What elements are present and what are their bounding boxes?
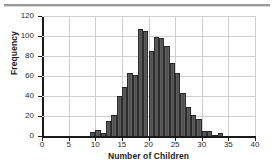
- y-axis-tick-mark: [38, 16, 42, 17]
- x-axis-tick-label: 35: [218, 141, 238, 149]
- gridline-vertical: [202, 16, 203, 136]
- gridline-vertical: [69, 16, 70, 136]
- y-axis-tick-label: 0: [12, 132, 34, 140]
- x-axis-tick-mark: [228, 137, 229, 141]
- y-axis-tick-label: 100: [12, 32, 34, 40]
- x-axis-tick-mark: [175, 137, 176, 141]
- plot-area: [42, 16, 255, 136]
- histogram-bar: [218, 133, 223, 136]
- x-axis-tick-mark: [202, 137, 203, 141]
- y-axis-tick-label: 20: [12, 112, 34, 120]
- x-axis-tick-mark: [122, 137, 123, 141]
- x-axis-tick-label: 15: [112, 141, 132, 149]
- x-axis-tick-mark: [255, 137, 256, 141]
- y-axis-tick-label: 40: [12, 92, 34, 100]
- x-axis-tick-label: 5: [59, 141, 79, 149]
- y-axis-tick-mark: [38, 56, 42, 57]
- x-axis-tick-label: 25: [165, 141, 185, 149]
- x-axis-tick-label: 10: [85, 141, 105, 149]
- x-axis-title: Number of Children: [42, 151, 255, 161]
- y-axis-tick-mark: [38, 96, 42, 97]
- x-axis-tick-label: 30: [192, 141, 212, 149]
- x-axis-tick-label: 0: [32, 141, 52, 149]
- y-axis-tick-label: 120: [12, 12, 34, 20]
- y-axis-tick-label: 80: [12, 52, 34, 60]
- x-axis-tick-mark: [149, 137, 150, 141]
- histogram-figure: Frequency Number of Children 02040608010…: [0, 0, 274, 166]
- x-axis-tick-mark: [69, 137, 70, 141]
- x-axis-tick-label: 20: [139, 141, 159, 149]
- gridline-vertical: [255, 16, 256, 136]
- x-axis-tick-mark: [42, 137, 43, 141]
- y-axis-tick-mark: [38, 116, 42, 117]
- x-axis-tick-label: 40: [245, 141, 265, 149]
- y-axis-tick-mark: [38, 36, 42, 37]
- y-axis-tick-mark: [38, 76, 42, 77]
- x-axis-tick-mark: [95, 137, 96, 141]
- y-axis-tick-label: 60: [12, 72, 34, 80]
- gridline-vertical: [95, 16, 96, 136]
- page-top-rule-shadow: [4, 6, 270, 7]
- gridline-vertical: [228, 16, 229, 136]
